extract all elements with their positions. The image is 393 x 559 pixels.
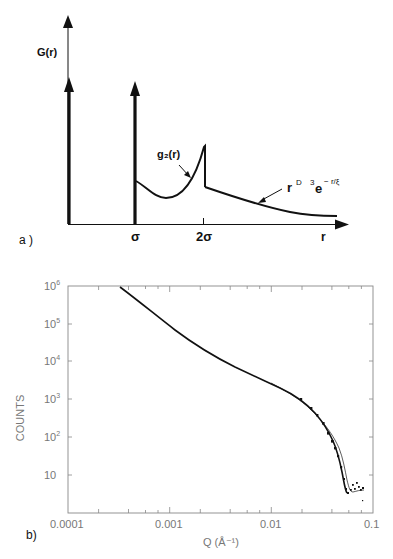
- panel-b-x-label: Q (Å⁻¹): [203, 536, 239, 548]
- svg-text:102: 102: [44, 430, 60, 443]
- svg-text:103: 103: [44, 392, 60, 405]
- panel-b-data-points: [300, 398, 364, 501]
- panel-b-x-tick-3: 0.1: [364, 518, 379, 530]
- panel-b-y-tick-labels: 106 105 104 103 102 10: [44, 279, 60, 481]
- panel-b-x-ticks: [99, 286, 362, 513]
- panel-a-x-axis-arrow-icon: [335, 220, 349, 230]
- panel-b-x-tick-1: 0.001: [155, 518, 183, 530]
- tail-label: r D 3 e − r/ξ: [287, 177, 340, 196]
- g2-label: g₂(r): [157, 148, 181, 160]
- panel-b-x-tick-2: 0.01: [260, 518, 281, 530]
- svg-text:e: e: [315, 181, 322, 196]
- panel-a: G(r) σ 2σ r a ) g₂(r) r D 3 e − r/ξ: [19, 15, 349, 247]
- figure: G(r) σ 2σ r a ) g₂(r) r D 3 e − r/ξ: [0, 0, 393, 559]
- svg-text:D: D: [296, 178, 302, 187]
- panel-b-x-tick-0: 0.0001: [50, 518, 84, 530]
- svg-text:r: r: [287, 180, 292, 195]
- panel-b-y-ticks: [68, 324, 373, 475]
- delta-spike-origin-arrow-icon: [64, 77, 74, 92]
- panel-a-x-label: r: [321, 230, 326, 244]
- panel-b-label: b): [26, 528, 37, 542]
- panel-a-tick-sigma: σ: [131, 229, 140, 244]
- panel-a-tick-2sigma: 2σ: [196, 229, 212, 244]
- svg-text:104: 104: [44, 354, 60, 367]
- svg-text:− r/ξ: − r/ξ: [324, 177, 340, 186]
- panel-b-fit-curve: [271, 383, 364, 492]
- svg-text:105: 105: [44, 317, 60, 330]
- panel-b-data-curve: [120, 287, 347, 493]
- tail-pointer: [262, 189, 282, 200]
- delta-spike-sigma-arrow-icon: [130, 81, 140, 96]
- svg-text:106: 106: [44, 279, 60, 292]
- svg-text:10: 10: [44, 469, 56, 481]
- panel-b-y-label: COUNTS: [14, 395, 26, 441]
- panel-b-plot-frame: [68, 286, 373, 513]
- panel-a-y-axis-arrow-icon: [63, 15, 73, 28]
- panel-a-y-label: G(r): [37, 46, 58, 58]
- panel-a-label: a ): [19, 233, 33, 247]
- panel-b: 106 105 104 103 102 10 COUNTS 0.0001 0.0…: [14, 279, 379, 548]
